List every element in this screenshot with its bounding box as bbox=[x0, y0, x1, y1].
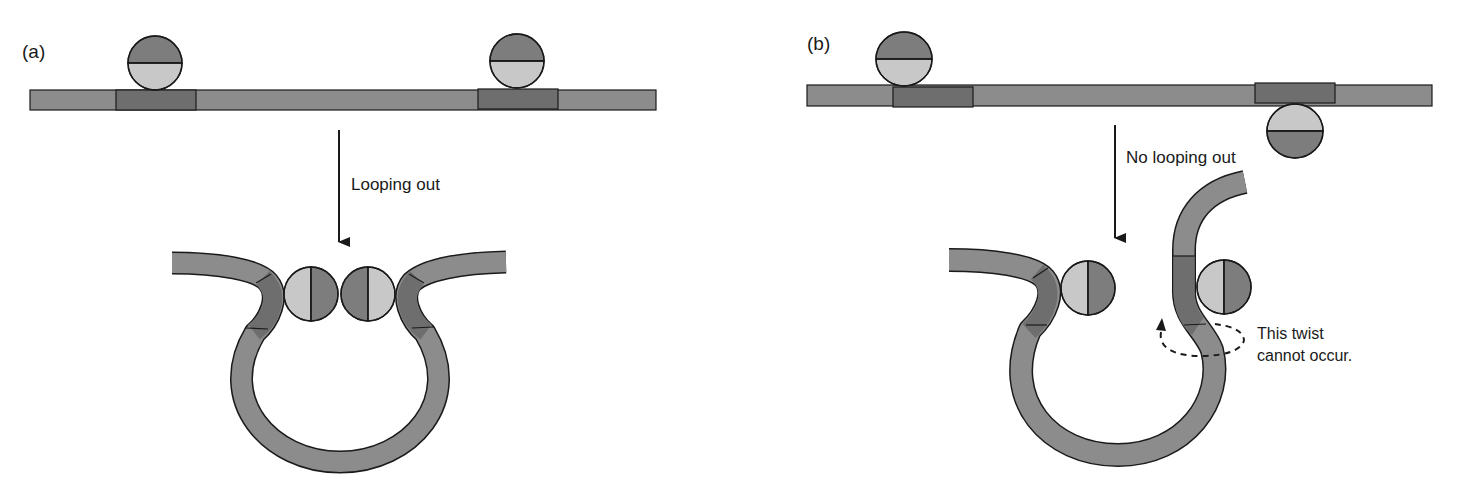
no-looping-out-label: No looping out bbox=[1126, 148, 1236, 167]
dna-looping-diagram: (a) Looping out bbox=[0, 0, 1462, 483]
twist-annotation-line2: cannot occur. bbox=[1257, 347, 1352, 364]
dna-loop-b bbox=[949, 182, 1245, 455]
panel-b: (b) No looping out bbox=[807, 32, 1432, 455]
protein-b-loop-left bbox=[1061, 261, 1115, 315]
binding-site-left bbox=[116, 90, 196, 110]
protein-a-loop-right bbox=[341, 267, 395, 321]
protein-b-loop-right bbox=[1197, 260, 1251, 314]
dna-loop-a bbox=[172, 262, 506, 462]
panel-a-label: (a) bbox=[22, 41, 45, 62]
binding-site-right bbox=[1255, 83, 1335, 103]
panel-a: (a) Looping out bbox=[22, 34, 656, 462]
protein-a-left bbox=[128, 36, 182, 90]
twist-annotation-line1: This twist bbox=[1257, 325, 1324, 342]
protein-b-top bbox=[876, 32, 932, 86]
binding-site-left bbox=[893, 87, 973, 107]
linear-dna-a bbox=[30, 89, 656, 110]
looping-out-label: Looping out bbox=[351, 175, 440, 194]
protein-a-loop-left bbox=[284, 267, 338, 321]
linear-dna-b bbox=[807, 83, 1432, 107]
binding-site-right bbox=[478, 89, 558, 109]
protein-b-bottom bbox=[1267, 104, 1323, 158]
panel-b-label: (b) bbox=[807, 33, 830, 54]
protein-a-right bbox=[490, 34, 544, 88]
